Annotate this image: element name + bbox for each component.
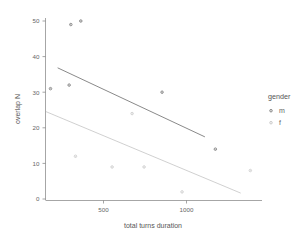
y-axis-title: overlap N (14, 94, 22, 124)
data-point-m (70, 23, 73, 26)
legend-label: m (279, 107, 285, 114)
x-axis-ticks: 500 1000 (98, 201, 194, 214)
plot-data-layer (46, 20, 251, 193)
data-point-m (161, 91, 164, 94)
scatter-plot-figure: 0 10 20 30 40 50 500 1000 total turns du… (0, 0, 305, 246)
data-point-f (111, 166, 114, 169)
data-point-m (80, 20, 83, 23)
y-tick-label: 10 (33, 160, 40, 167)
y-tick-label: 0 (36, 195, 40, 202)
legend-entries: mf (270, 107, 285, 126)
y-tick-label: 50 (33, 17, 40, 24)
legend-title: gender (268, 92, 291, 101)
legend-item-m[interactable]: m (270, 107, 285, 114)
data-point-m (49, 87, 52, 90)
x-axis-title: total turns duration (124, 222, 182, 229)
chart-canvas: 0 10 20 30 40 50 500 1000 total turns du… (0, 0, 305, 246)
y-tick-label: 40 (33, 53, 40, 60)
data-point-m (214, 148, 217, 151)
data-point-f (181, 191, 184, 194)
y-tick-label: 20 (33, 124, 40, 131)
legend-item-f[interactable]: f (270, 119, 281, 126)
data-point-f (143, 166, 146, 169)
legend-marker-dot-icon (271, 122, 272, 123)
data-point-m (68, 84, 71, 87)
legend-marker-dot-icon (271, 110, 272, 111)
legend: gender mf (268, 92, 291, 126)
regression-line-f (46, 112, 240, 193)
x-tick-label: 1000 (180, 206, 194, 213)
regression-line-m (58, 68, 205, 137)
data-point-f (249, 169, 252, 172)
x-tick-label: 500 (98, 206, 109, 213)
data-point-f (131, 112, 134, 115)
data-point-f (74, 155, 77, 158)
y-axis-ticks: 0 10 20 30 40 50 (33, 17, 46, 202)
legend-label: f (279, 119, 281, 126)
y-tick-label: 30 (33, 89, 40, 96)
